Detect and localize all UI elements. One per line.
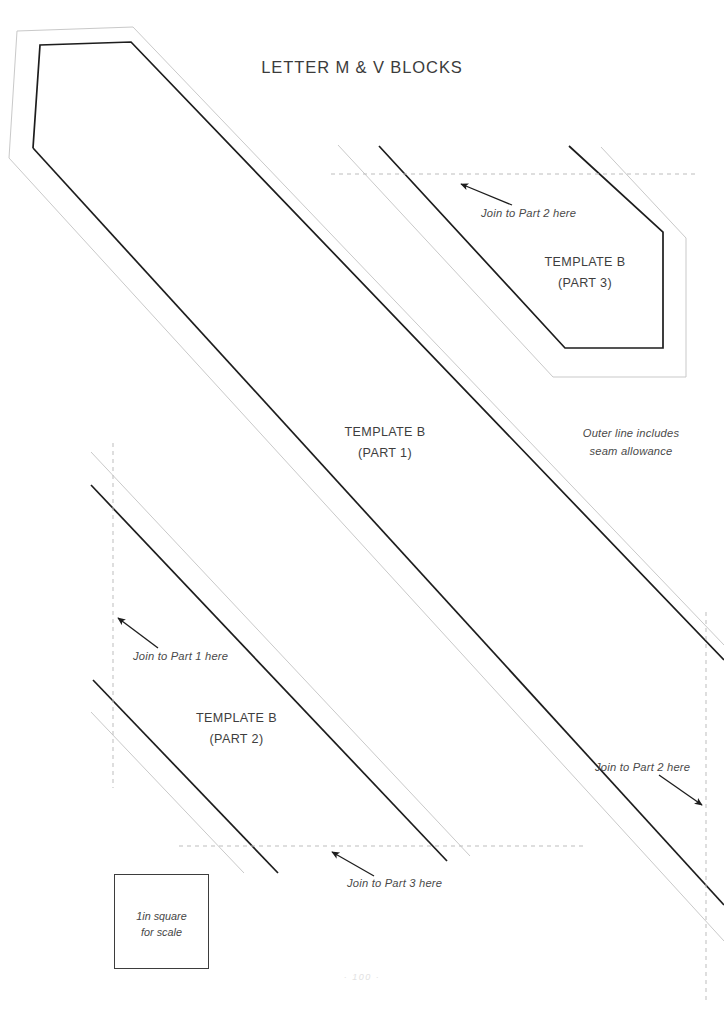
scale-caption-line2: for scale [114, 924, 209, 940]
template-label-part1-part: (PART 1) [300, 443, 470, 464]
note-seam-allowance-line2: seam allowance [556, 442, 706, 460]
scale-caption-line1: 1in square [114, 908, 209, 924]
template-label-part3-name: TEMPLATE B [495, 252, 675, 273]
part1-seam-line [9, 27, 724, 645]
template-label-part1-name: TEMPLATE B [300, 422, 470, 443]
part3-cut-line [379, 146, 663, 348]
note-join-to-part-1: Join to Part 1 here [133, 650, 228, 662]
note-seam-allowance-line1: Outer line includes [556, 424, 706, 442]
part1-cut-line [33, 42, 724, 660]
note-seam-allowance: Outer line includes seam allowance [556, 424, 706, 460]
template-label-part3: TEMPLATE B (PART 3) [495, 252, 675, 294]
note-join-to-part-2-top: Join to Part 2 here [481, 207, 576, 219]
template-label-part2: TEMPLATE B (PART 2) [149, 708, 324, 750]
part2-upper-cut-line [91, 485, 447, 861]
scale-reference-caption: 1in square for scale [114, 908, 209, 940]
template-label-part2-name: TEMPLATE B [149, 708, 324, 729]
page-number-footer: · 100 · [0, 972, 724, 982]
pattern-sheet: LETTER M & V BLOCKS TEMPLATE B (PART 1) … [0, 0, 724, 1034]
note-join-to-part-3: Join to Part 3 here [347, 877, 442, 889]
template-label-part2-part: (PART 2) [149, 729, 324, 750]
arrow-join-part3 [332, 852, 374, 876]
page-title: LETTER M & V BLOCKS [0, 58, 724, 77]
template-label-part1: TEMPLATE B (PART 1) [300, 422, 470, 464]
arrow-join-part2-top [461, 184, 512, 205]
note-join-to-part-2-right: Join to Part 2 here [595, 761, 690, 773]
template-label-part3-part: (PART 3) [495, 273, 675, 294]
arrow-join-part1 [118, 618, 158, 648]
arrow-join-part2-right [659, 775, 702, 805]
